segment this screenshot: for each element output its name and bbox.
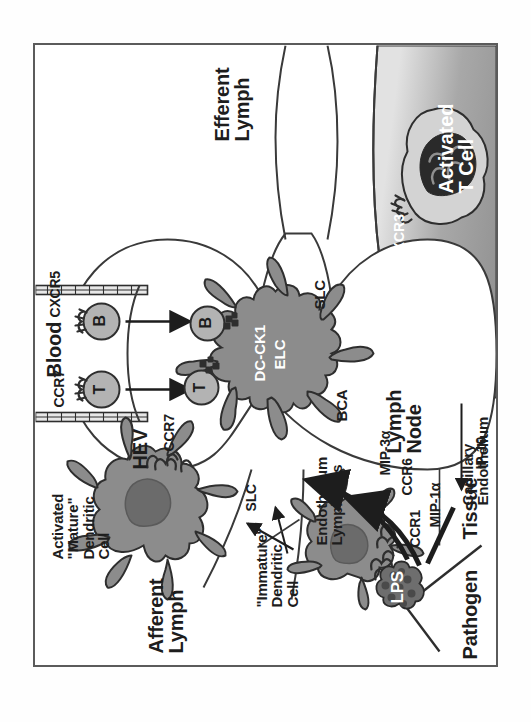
label-activated-t-cell: Activated T Cell [435, 103, 476, 193]
label-bca: BCA [333, 389, 348, 421]
label-mature-dendritic-cell: Activated "Mature" Dendritic Cell [49, 493, 110, 559]
figure-page: Pathogen LPS Tissue CCR1 MIP-1α CCR6 MIP… [0, 0, 531, 722]
label-pathogen: Pathogen [459, 569, 479, 659]
label-slc-node: SLC [311, 280, 326, 309]
label-ccr1: CCR1 [407, 510, 421, 547]
label-elc: ELC [271, 339, 286, 369]
efferent-lymphatic-channel [275, 45, 337, 239]
label-dc-ck1: DC-CK1 [251, 324, 266, 381]
label-blood-hev: Blood [43, 321, 63, 377]
label-ccr7-dendritic-cell: CCR7 [161, 414, 175, 451]
label-capillary-endothelium-text: Capillary Endothelium [459, 416, 490, 505]
label-endothelium-lymphatics: Endothelium Lymphatics [313, 456, 344, 545]
label-cxcr3: CXCR3 [391, 214, 405, 261]
label-hev: HEV [129, 428, 149, 469]
label-b-cell-node: B [197, 316, 213, 328]
label-efferent-lymph: Efferent Lymph [211, 67, 252, 141]
label-immature-dendritic-cell: "Immature" Dendritic Cell [253, 527, 299, 607]
label-cxcr5-b-cell: CXCR5 [47, 271, 61, 317]
label-b-cell-hev: B [91, 314, 107, 326]
figure-frame: Pathogen LPS Tissue CCR1 MIP-1α CCR6 MIP… [33, 43, 498, 667]
label-ccr6: CCR6 [399, 458, 413, 495]
label-blood-capillary: Blood [459, 318, 479, 375]
label-afferent-lymph: Afferent Lymph [145, 578, 186, 653]
diagram-canvas: Pathogen LPS Tissue CCR1 MIP-1α CCR6 MIP… [35, 45, 496, 665]
label-lymph-node: Lymph Node [383, 389, 424, 453]
label-slc-lymphatic: SLC [243, 484, 257, 511]
label-lps: LPS [388, 571, 405, 603]
label-mip1a: MIP-1α [427, 482, 441, 527]
label-ccr7-t-cell: CCR7 [51, 370, 65, 407]
label-t-cell-hev: T [91, 384, 107, 394]
label-t-cell-node: T [191, 382, 207, 392]
